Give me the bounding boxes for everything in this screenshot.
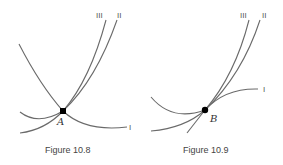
point-B-marker — [202, 107, 208, 113]
curve-III-fig8 — [63, 20, 106, 111]
figure-10-8: A I II III — [19, 11, 131, 133]
curve-III-fig9 — [205, 20, 249, 110]
point-B-label: B — [209, 113, 217, 124]
figure-10-9: B I II III — [151, 11, 266, 133]
label-I-fig9: I — [263, 85, 265, 94]
label-II-fig8: II — [117, 11, 121, 20]
point-A-label: A — [56, 116, 64, 127]
curve-I-fig8 — [19, 44, 127, 128]
figure-10-8-caption: Figure 10.8 — [45, 145, 91, 155]
figure-10-9-caption: Figure 10.9 — [183, 145, 229, 155]
label-II-fig9: II — [262, 11, 266, 20]
curve-lower-left-a-fig9 — [151, 97, 205, 114]
label-III-fig9: III — [240, 11, 247, 20]
label-I-fig8: I — [129, 123, 131, 132]
label-III-fig8: III — [96, 11, 103, 20]
curve-II-fig9 — [205, 20, 260, 110]
diagram-canvas: A I II III B I II III — [0, 0, 283, 165]
point-A-marker — [60, 108, 66, 114]
